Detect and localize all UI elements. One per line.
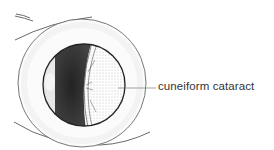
label-cuneiform-cataract: cuneiform cataract (158, 80, 254, 92)
eye-diagram (0, 0, 274, 150)
